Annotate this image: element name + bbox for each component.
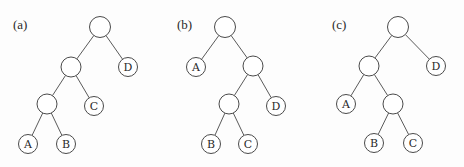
node-circle [388,17,409,38]
node-label: B [370,137,378,150]
tree-panel-c: (c)DABC [332,17,446,153]
node-label: A [23,138,33,151]
node-circle [219,94,239,114]
internal-node [388,17,409,38]
leaf-node-b: B [365,134,384,153]
tree-edge [51,113,62,135]
panel-label: (b) [177,17,192,32]
leaf-node-c: C [85,97,104,116]
tree-edge [231,36,247,58]
node-circle [61,57,81,77]
tree-edge [258,75,271,98]
tree-edge [378,113,388,134]
tree-edge [52,75,65,95]
tree-edge [351,75,364,96]
tree-panel-b: (b)ADBC [177,17,286,154]
internal-node [90,17,111,38]
panel-label: (c) [332,17,346,32]
leaf-node-a: A [337,95,356,114]
tree-edge [405,35,429,60]
leaf-node-d: D [427,57,446,76]
tree-edge [202,36,219,60]
node-label: C [244,138,252,151]
internal-node [383,94,403,114]
tree-diagrams-canvas: (a)DCAB(b)ADBC(c)DABC [0,0,464,167]
node-label: C [90,100,98,113]
leaf-node-d: D [267,97,286,116]
tree-edge [106,36,123,60]
tree-diagrams-svg: (a)DCAB(b)ADBC(c)DABC [0,0,464,167]
internal-node [37,94,57,114]
tree-edge [32,113,43,135]
node-label: C [409,137,417,150]
internal-node [243,56,263,76]
node-circle [383,94,403,114]
node-circle [37,94,57,114]
node-label: D [272,100,281,113]
node-circle [90,17,111,38]
node-label: B [62,138,70,151]
leaf-node-c: C [404,134,423,153]
tree-edge [77,36,94,59]
leaf-node-d: D [119,58,138,77]
tree-edge [398,113,409,135]
node-circle [215,17,236,38]
tree-edge [234,74,247,95]
node-circle [243,56,263,76]
tree-edge [233,113,244,135]
leaf-node-c: C [239,135,258,154]
tree-panel-a: (a)DCAB [13,17,138,154]
node-label: D [124,61,133,74]
tree-edge [76,76,89,98]
node-circle [359,56,379,76]
internal-node [215,17,236,38]
leaf-node-a: A [19,135,38,154]
internal-node [61,57,81,77]
internal-node [219,94,239,114]
tree-edge [374,74,387,95]
panel-label: (a) [13,17,27,32]
node-label: B [207,138,215,151]
node-label: A [341,98,351,111]
tree-edge [215,113,225,135]
tree-edge [375,35,392,58]
internal-node [359,56,379,76]
leaf-node-b: B [202,135,221,154]
node-label: A [191,61,201,74]
leaf-node-a: A [187,58,206,77]
leaf-node-b: B [57,135,76,154]
node-label: D [432,60,441,73]
